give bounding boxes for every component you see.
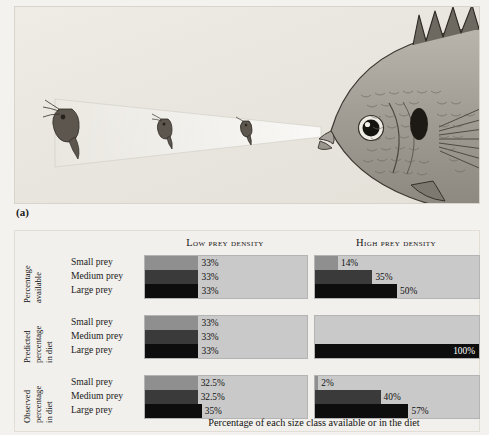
value-medium-available-low: 33% (198, 270, 218, 284)
prey-label-medium: Medium prey (71, 329, 139, 343)
prey-label-medium: Medium prey (71, 269, 139, 283)
bar-large-available-low (145, 284, 198, 298)
value-large-available-high: 50% (397, 284, 417, 298)
value-small-predicted-low: 33% (198, 316, 218, 330)
value-large-available-low: 33% (198, 284, 218, 298)
value-small-observed-high: 2% (318, 376, 334, 390)
figure-root: (a) Low prey density High prey density P… (0, 0, 489, 435)
bar-large-predicted-low (145, 344, 198, 358)
axis-label-text: percentage (34, 309, 44, 363)
value-large-predicted-low: 33% (198, 344, 218, 358)
prey-class-labels: Small prey Medium prey Large prey (71, 255, 139, 297)
bar-medium-observed-high (315, 390, 381, 404)
prey-class-labels: Small prey Medium prey Large prey (71, 315, 139, 357)
axis-label-text: in diet (45, 309, 55, 363)
prey-density-chart: Low prey density High prey density Perce… (14, 230, 480, 432)
bar-medium-observed-low (145, 390, 198, 404)
value-small-available-high: 14% (338, 256, 358, 270)
row-group-predicted-percentage-in-diet: Predicted percentage in diet Small prey … (15, 315, 479, 357)
bar-large-observed-high (315, 404, 408, 418)
row-group-observed-percentage-in-diet: Observed percentage in diet Small prey M… (15, 375, 479, 417)
plot-available-high: 14% 35% 50% (314, 255, 480, 299)
plot-available-low: 33% 33% 33% (144, 255, 308, 299)
value-medium-observed-high: 40% (381, 390, 401, 404)
axis-label-text: Predicted (23, 309, 33, 363)
axis-label-text: Observed (23, 369, 33, 423)
bar-small-available-high (315, 256, 338, 270)
bar-small-predicted-low (145, 316, 198, 330)
fish-foraging-illustration (14, 6, 480, 204)
bar-large-available-high (315, 284, 397, 298)
plot-observed-low: 32.5% 32.5% 35% (144, 375, 308, 419)
value-small-observed-low: 32.5% (198, 376, 225, 390)
column-header-high-prey-density: High prey density (314, 237, 478, 248)
value-large-observed-low: 35% (202, 404, 222, 418)
prey-label-large: Large prey (71, 283, 139, 297)
plot-observed-high: 2% 40% 57% (314, 375, 480, 419)
prey-label-large: Large prey (71, 403, 139, 417)
value-large-predicted-high: 100% (453, 344, 479, 358)
panel-label-a: (a) (16, 206, 29, 218)
prey-label-medium: Medium prey (71, 389, 139, 403)
column-header-low-prey-density: Low prey density (144, 237, 306, 248)
prey-label-small: Small prey (71, 255, 139, 269)
value-medium-predicted-low: 33% (198, 330, 218, 344)
axis-label-text: in diet (45, 369, 55, 423)
row-group-percentage-available: Percentage available Small prey Medium p… (15, 255, 479, 297)
value-small-available-low: 33% (198, 256, 218, 270)
plot-predicted-high: 100% (314, 315, 480, 359)
x-axis-caption: Percentage of each size class available … (144, 417, 484, 428)
bar-large-observed-low (145, 404, 202, 418)
bar-medium-predicted-low (145, 330, 198, 344)
prey-label-small: Small prey (71, 315, 139, 329)
bar-small-available-low (145, 256, 198, 270)
value-medium-observed-low: 32.5% (198, 390, 225, 404)
axis-label-text: percentage (34, 369, 44, 423)
axis-label-text: Percentage (23, 249, 33, 303)
plot-predicted-low: 33% 33% 33% (144, 315, 308, 359)
perception-cone (55, 99, 321, 167)
axis-label-text: available (34, 249, 44, 303)
value-medium-available-high: 35% (372, 270, 392, 284)
bar-medium-available-high (315, 270, 372, 284)
bar-medium-available-low (145, 270, 198, 284)
prey-label-large: Large prey (71, 343, 139, 357)
illustration-svg (15, 7, 479, 203)
value-large-observed-high: 57% (408, 404, 428, 418)
bluegill-sunfish (318, 7, 479, 203)
prey-label-small: Small prey (71, 375, 139, 389)
bar-small-observed-low (145, 376, 198, 390)
prey-class-labels: Small prey Medium prey Large prey (71, 375, 139, 417)
